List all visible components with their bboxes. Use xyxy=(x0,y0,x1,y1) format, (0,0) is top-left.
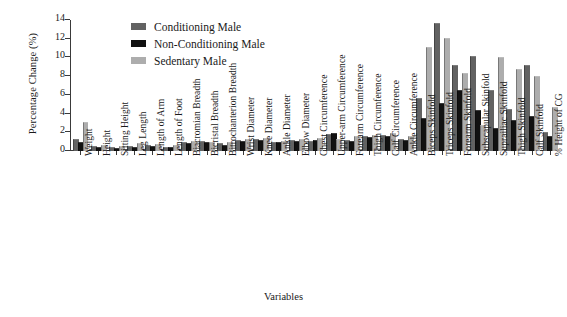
x-axis-title: Variables xyxy=(0,291,567,302)
x-axis-tick xyxy=(297,151,298,155)
x-axis-tick xyxy=(207,151,208,155)
x-axis-tick xyxy=(514,151,515,155)
x-axis-tick xyxy=(315,151,316,155)
x-axis-tick-label: Bitrochanterion Breadth xyxy=(228,63,238,156)
x-axis-tick xyxy=(98,151,99,155)
y-axis-tick-label: 2 xyxy=(43,124,65,135)
x-axis-tick-label: Chest Circumference xyxy=(319,75,329,156)
x-axis-tick-label: % Height of CG xyxy=(554,93,564,156)
y-axis-tick: 14 xyxy=(65,19,70,20)
x-axis-tick-label: Wrist Diameter xyxy=(246,97,256,156)
x-axis-tick-label: Length of Foot xyxy=(174,98,184,156)
x-axis-tick xyxy=(134,151,135,155)
x-axis-tick xyxy=(351,151,352,155)
y-axis-tick: 0 xyxy=(65,150,70,151)
y-axis-line xyxy=(70,20,71,151)
x-axis-tick-label: Triceps Skinfold xyxy=(445,92,455,156)
x-axis-tick xyxy=(188,151,189,155)
x-axis-tick xyxy=(369,151,370,155)
y-axis-tick-label: 4 xyxy=(43,106,65,117)
x-axis-tick-label: Leg Length xyxy=(138,111,148,156)
x-axis-tick-label: Length of Arm xyxy=(156,99,166,156)
x-axis-tick-label: Thigh Circumference xyxy=(373,74,383,156)
y-axis-tick: 12 xyxy=(65,38,70,39)
y-axis-tick: 8 xyxy=(65,75,70,76)
y-axis-tick: 4 xyxy=(65,113,70,114)
x-axis-tick xyxy=(225,151,226,155)
x-axis-tick xyxy=(152,151,153,155)
x-axis-tick-label: Sitting Height xyxy=(120,102,130,156)
y-axis-tick: 2 xyxy=(65,131,70,132)
x-axis-tick xyxy=(170,151,171,155)
x-axis-tick xyxy=(333,151,334,155)
y-axis-tick-label: 14 xyxy=(43,12,65,23)
x-axis-tick-label: Upper-arm Circumference xyxy=(337,55,347,156)
x-axis-tick-label: Forearm Circumference xyxy=(355,64,365,156)
y-axis-tick-label: 6 xyxy=(43,87,65,98)
x-axis-tick-label: Suprailiac Skinfold xyxy=(499,81,509,156)
x-axis-tick-label: Biceps Skinfold xyxy=(427,94,437,156)
x-axis-tick-label: Subscapular Skinfold xyxy=(481,73,491,156)
x-axis-tick xyxy=(442,151,443,155)
x-axis-tick-label: Knee Diameter xyxy=(264,98,274,156)
y-axis-tick-label: 8 xyxy=(43,68,65,79)
y-axis-tick: 10 xyxy=(65,56,70,57)
x-axis-tick-label: Height xyxy=(102,130,112,156)
x-axis-tick-label: Calf Skinfold xyxy=(535,104,545,156)
x-axis-tick xyxy=(423,151,424,155)
x-axis-tick-label: Biacromian Breadth xyxy=(192,78,202,156)
x-axis-tick-label: Thigh Skinfold xyxy=(517,98,527,157)
x-axis-tick xyxy=(243,151,244,155)
x-axis-tick-label: Forearm Skinfold xyxy=(463,88,473,156)
x-axis-tick-label: Ankle Circumference xyxy=(409,73,419,156)
x-axis-tick xyxy=(279,151,280,155)
x-axis-tick xyxy=(387,151,388,155)
x-axis-tick xyxy=(116,151,117,155)
x-axis-tick xyxy=(405,151,406,155)
x-axis-tick-label: Calf Circumference xyxy=(391,80,401,156)
y-axis-tick-label: 12 xyxy=(43,31,65,42)
x-axis-tick xyxy=(261,151,262,155)
x-axis-tick xyxy=(478,151,479,155)
y-axis-title: Percentage Change (%) xyxy=(27,4,38,164)
x-axis-tick-label: Weight xyxy=(84,128,94,156)
y-axis-tick-label: 10 xyxy=(43,49,65,60)
chart-figure: Percentage Change (%) Conditioning Male … xyxy=(0,0,567,317)
x-axis-tick-label: Bicristal Breadth xyxy=(210,91,220,157)
x-axis-tick xyxy=(80,151,81,155)
x-axis-tick xyxy=(496,151,497,155)
y-axis-tick-label: 0 xyxy=(43,143,65,154)
x-axis-tick-label: Ankle Diameter xyxy=(282,94,292,156)
y-axis-tick: 6 xyxy=(65,94,70,95)
x-axis-tick xyxy=(532,151,533,155)
x-axis-tick-label: Elbow Diameter xyxy=(301,93,311,156)
x-axis-tick xyxy=(550,151,551,155)
x-axis-tick xyxy=(460,151,461,155)
